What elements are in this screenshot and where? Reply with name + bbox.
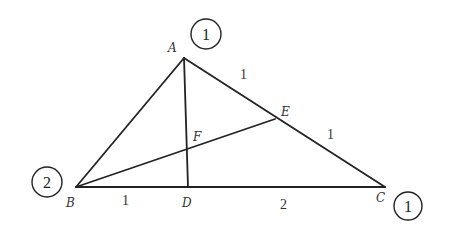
segment-ac: [184, 58, 385, 187]
length-label-bd: 1: [122, 193, 129, 208]
vertex-label-c: C: [376, 191, 385, 205]
mass-label-a: 1: [202, 26, 210, 43]
length-label-ec: 1: [327, 127, 334, 142]
mass-label-b: 2: [43, 174, 51, 191]
length-label-dc: 2: [280, 197, 287, 212]
length-label-ae: 1: [240, 67, 247, 82]
vertex-label-b: B: [65, 196, 75, 210]
mass-label-c: 1: [404, 198, 412, 215]
segment-be: [76, 119, 275, 187]
mass-circle-a: 1: [191, 19, 221, 49]
segment-ad: [184, 58, 188, 187]
mass-circle-b: 2: [32, 167, 62, 197]
vertex-label-d: D: [181, 196, 192, 210]
vertex-label-a: A: [167, 41, 177, 55]
vertex-label-e: E: [280, 105, 290, 119]
vertex-label-f: F: [192, 130, 202, 144]
mass-circle-c: 1: [394, 192, 422, 220]
triangle-diagram: A B C D E F 1 1 1 2 1 2 1: [0, 0, 455, 232]
